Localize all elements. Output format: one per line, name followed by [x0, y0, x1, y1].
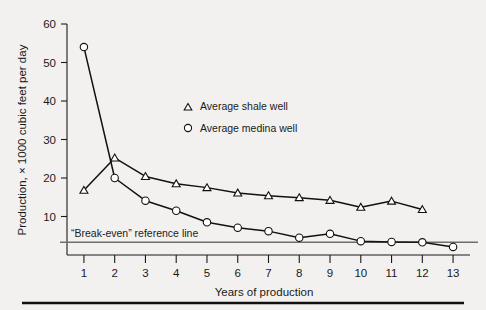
- data-point-marker: [326, 230, 333, 237]
- data-point-marker: [173, 207, 180, 214]
- y-tick-label: 50: [43, 57, 56, 69]
- x-tick-label: 13: [447, 267, 460, 279]
- y-tick-label: 30: [43, 134, 56, 146]
- data-point-marker: [419, 239, 426, 246]
- data-point-marker: [449, 243, 456, 250]
- circle-marker-icon: [184, 124, 191, 131]
- x-tick-label: 10: [354, 267, 367, 279]
- x-tick-label: 12: [416, 267, 429, 279]
- break-even-reference-label: “Break-even” reference line: [71, 227, 198, 239]
- data-point-marker: [142, 197, 149, 204]
- data-point-marker: [388, 238, 395, 245]
- data-point-marker: [357, 237, 364, 244]
- data-point-marker: [203, 219, 210, 226]
- x-tick-label: 1: [81, 267, 87, 279]
- data-point-marker: [234, 224, 241, 231]
- x-axis-title: Years of production: [215, 286, 314, 298]
- production-decline-chart: 102030405060 12345678910111213 “Break-ev…: [0, 0, 486, 310]
- x-tick-label: 11: [386, 267, 398, 279]
- legend-item-average-medina-well: Average medina well: [184, 122, 297, 134]
- x-tick-label: 6: [235, 267, 241, 279]
- y-axis-title: Production, × 1000 cubic feet per day: [16, 44, 28, 235]
- x-tick-label: 7: [265, 267, 271, 279]
- data-point-marker: [296, 234, 303, 241]
- x-tick-label: 8: [296, 267, 302, 279]
- legend-label-medina: Average medina well: [200, 122, 297, 134]
- y-tick-label: 10: [43, 211, 56, 223]
- data-point-marker: [80, 43, 87, 50]
- x-tick-label: 4: [173, 267, 180, 279]
- figure-container: 102030405060 12345678910111213 “Break-ev…: [0, 0, 486, 310]
- x-tick-label: 9: [327, 267, 333, 279]
- legend-label-shale: Average shale well: [200, 100, 288, 112]
- y-tick-label: 40: [43, 95, 56, 107]
- legend-item-average-shale-well: Average shale well: [184, 100, 288, 112]
- chart-background: [0, 0, 486, 310]
- data-point-marker: [111, 174, 118, 181]
- y-tick-label: 60: [43, 18, 56, 30]
- x-tick-label: 3: [142, 267, 148, 279]
- x-tick-label: 5: [204, 267, 210, 279]
- y-tick-label: 20: [43, 172, 56, 184]
- x-tick-label: 2: [111, 267, 117, 279]
- data-point-marker: [265, 227, 272, 234]
